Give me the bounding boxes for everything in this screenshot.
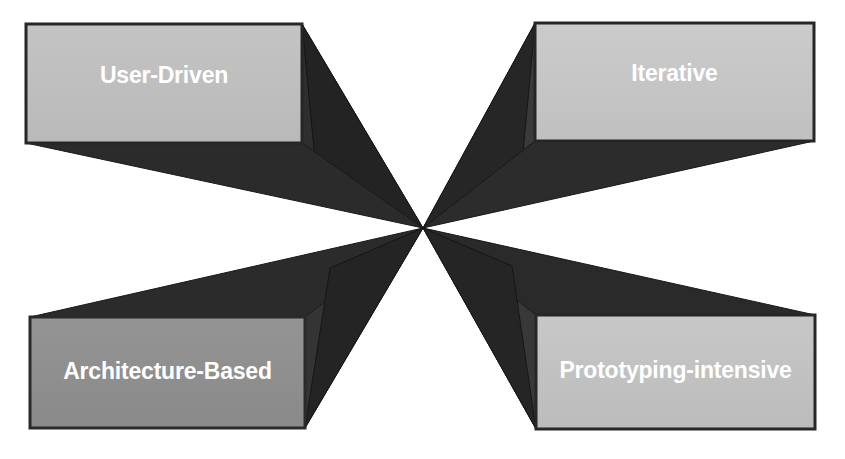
iterative-front-face: [535, 23, 814, 141]
converging-perspective-diagram: [0, 0, 845, 459]
prototyping-intensive-front-face: [536, 315, 815, 429]
user-driven-front-face: [26, 24, 302, 143]
diagram-canvas: User-Driven Iterative Architecture-Based…: [0, 0, 845, 459]
architecture-based-front-face: [30, 317, 305, 428]
